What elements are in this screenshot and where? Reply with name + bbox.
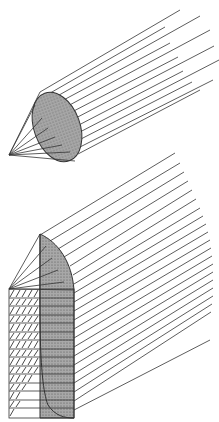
- bottom-figure-hatching: [10, 290, 38, 416]
- top-figure-aperture: [23, 85, 91, 168]
- bottom-figure-reflector: [40, 234, 74, 418]
- optics-diagram: [0, 0, 219, 422]
